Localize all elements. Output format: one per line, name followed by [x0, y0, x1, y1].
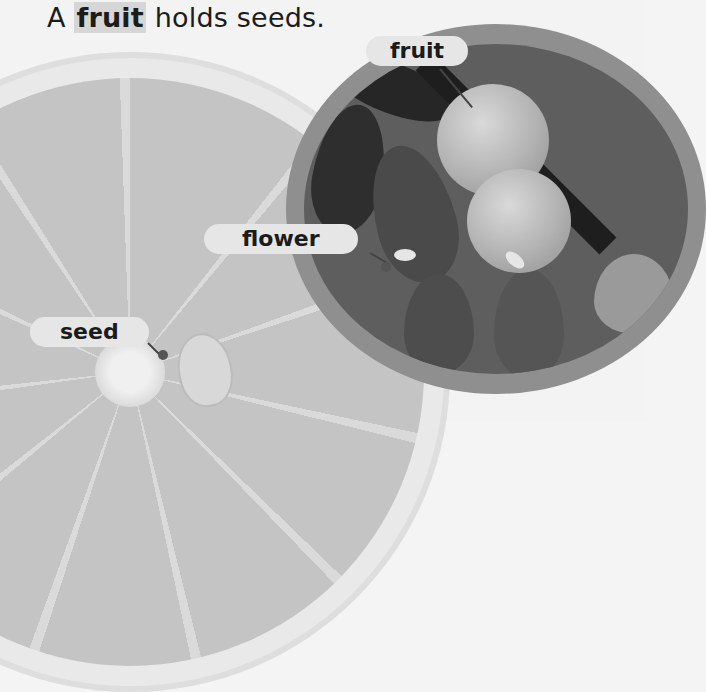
flower-photo — [394, 249, 416, 261]
leaf — [404, 274, 474, 374]
heading-prefix: A — [47, 2, 74, 33]
flower-label: flower — [204, 224, 358, 254]
leaf — [594, 254, 674, 334]
heading-keyword: fruit — [74, 2, 145, 33]
page-heading: A fruit holds seeds. — [47, 2, 325, 33]
heading-suffix: holds seeds. — [146, 2, 325, 33]
inset-photo-ring — [286, 24, 706, 394]
flower-label-dot — [381, 262, 391, 272]
seed-label: seed — [30, 317, 149, 347]
seed-label-dot — [158, 350, 168, 360]
fruit-label: fruit — [366, 36, 468, 66]
leaf — [494, 269, 564, 374]
inset-photo — [304, 44, 688, 374]
